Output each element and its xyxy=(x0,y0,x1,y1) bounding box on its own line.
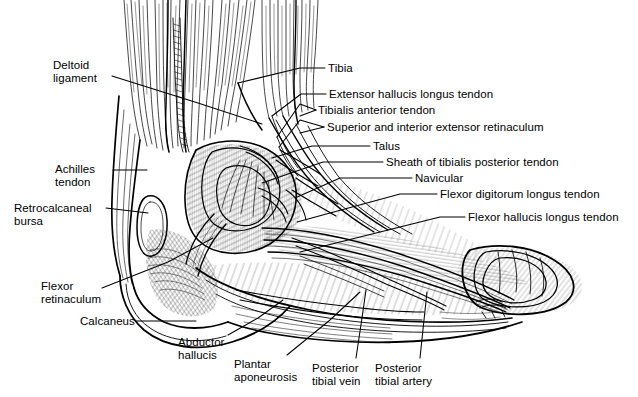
label-sheath-of-tibialis-posterior-tendon: Sheath of tibialis posterior tendon xyxy=(386,156,559,169)
label-flexor-digitorum-longus-tendon: Flexor digitorum longus tendon xyxy=(440,188,600,201)
label-posterior-tibial-artery: Posterior tibial artery xyxy=(375,362,432,389)
label-tibia: Tibia xyxy=(328,62,353,75)
label-posterior-tibial-vein: Posterior tibial vein xyxy=(312,362,361,389)
label-deltoid-ligament: Deltoid ligament xyxy=(53,59,97,86)
label-retrocalcaneal-bursa: Retrocalcaneal bursa xyxy=(14,202,92,229)
label-talus: Talus xyxy=(373,140,400,153)
label-layer: Deltoid ligament Achilles tendon Retroca… xyxy=(0,0,638,397)
label-flexor-retinaculum: Flexor retinaculum xyxy=(41,280,101,307)
label-tibialis-anterior-tendon: Tibialis anterior tendon xyxy=(318,104,435,117)
label-achilles-tendon: Achilles tendon xyxy=(55,163,95,190)
label-flexor-hallucis-longus-tendon: Flexor hallucis longus tendon xyxy=(468,211,619,224)
label-navicular: Navicular xyxy=(415,172,463,185)
label-plantar-aponeurosis: Plantar aponeurosis xyxy=(234,358,297,385)
label-extensor-hallucis-longus-tendon: Extensor hallucis longus tendon xyxy=(329,88,493,101)
label-calcaneus: Calcaneus xyxy=(80,315,135,328)
label-superior-and-interior-extensor-retinaculum: Superior and interior extensor retinacul… xyxy=(327,121,544,134)
anatomy-figure: Deltoid ligament Achilles tendon Retroca… xyxy=(0,0,638,397)
label-abductor-hallucis: Abductor hallucis xyxy=(178,336,225,363)
